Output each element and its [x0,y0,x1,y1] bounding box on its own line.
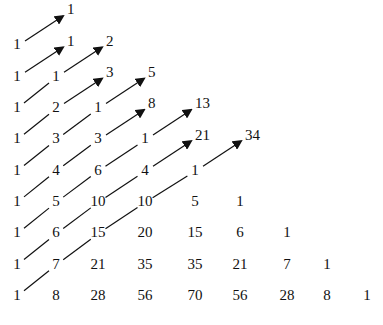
diagonal-segment [63,208,91,229]
diagram-canvas: 1111211331146411510105116152015611721353… [0,0,383,325]
triangle-entry: 2 [52,99,60,115]
diagonal-arrow [25,16,63,41]
triangle-entry: 6 [94,162,102,178]
diagonal-arrow [153,141,191,166]
triangle-entry: 21 [91,256,106,272]
triangle-entry: 4 [141,162,149,178]
triangle-entry: 1 [191,162,199,178]
triangle-entry: 35 [138,256,153,272]
diagonal-segment [24,83,49,103]
fibonacci-sum-label: 1 [67,33,75,49]
fibonacci-sum-label: 3 [106,64,114,80]
diagonal-segment [105,176,137,197]
triangle-entry: 15 [91,224,106,240]
triangle-entry: 6 [236,224,244,240]
triangle-entry: 8 [52,287,60,303]
triangle-entry: 1 [13,162,21,178]
triangle-entry: 21 [233,256,248,272]
triangle-entry: 1 [283,224,291,240]
fibonacci-sum-label: 1 [67,1,75,17]
triangle-entry: 1 [13,256,21,272]
diagonal-segment [24,177,49,197]
diagonal-arrow [203,141,241,166]
triangle-entry: 1 [13,193,21,209]
triangle-entry: 28 [91,287,106,303]
diagonal-segment [63,114,91,135]
fibonacci-sum-label: 34 [245,127,261,143]
triangle-entry: 3 [52,130,60,146]
diagonal-segment [24,114,49,134]
triangle-entry: 1 [13,36,21,52]
pascal-fibonacci-diagram: 1111211331146411510105116152015611721353… [0,0,383,325]
diagonal-segment [24,146,49,166]
triangle-entry: 70 [188,287,203,303]
triangle-entry: 10 [138,193,153,209]
diagonal-segment [63,239,91,260]
fibonacci-sum-label: 13 [195,95,210,111]
triangle-entry: 8 [323,287,331,303]
triangle-entry: 7 [52,256,60,272]
diagonal-segment [24,208,49,228]
triangle-entry: 15 [188,224,203,240]
diagonal-segment [63,145,91,166]
triangle-entry: 28 [280,287,295,303]
triangle-entry: 1 [13,130,21,146]
triangle-entry: 7 [283,256,291,272]
triangle-entry: 1 [13,99,21,115]
triangle-entry: 56 [233,287,249,303]
triangle-entry: 6 [52,224,60,240]
triangle-entry: 1 [52,68,60,84]
triangle-entry: 1 [94,99,102,115]
triangle-entry: 5 [191,193,199,209]
diagonal-segment [153,176,188,198]
triangle-entry: 1 [141,130,149,146]
diagonal-segment [63,177,91,198]
triangle-entry: 20 [138,224,153,240]
diagonal-segment [105,207,137,228]
diagonal-segment [105,145,137,166]
triangle-entry: 1 [363,287,371,303]
diagonal-arrow [106,79,144,104]
diagonal-arrow [106,110,144,135]
diagonal-segment [24,271,49,291]
diagonal-arrow [64,47,102,72]
fibonacci-sum-label: 8 [148,95,156,111]
triangle-entry: 56 [138,287,154,303]
triangle-entry: 1 [13,224,21,240]
triangle-entry: 1 [323,256,331,272]
triangle-entry: 1 [13,68,21,84]
triangle-entry: 4 [52,162,60,178]
triangle-entry: 10 [91,193,106,209]
diagonal-arrow [153,110,191,135]
triangle-entry: 1 [13,287,21,303]
triangle-entry: 1 [236,193,244,209]
diagonal-segment [24,239,49,259]
fibonacci-sum-label: 2 [106,33,114,49]
triangle-entry: 5 [52,193,60,209]
fibonacci-sum-label: 5 [148,64,156,80]
fibonacci-sum-label: 21 [195,127,210,143]
triangle-entry: 35 [188,256,203,272]
triangle-entry: 3 [94,130,102,146]
